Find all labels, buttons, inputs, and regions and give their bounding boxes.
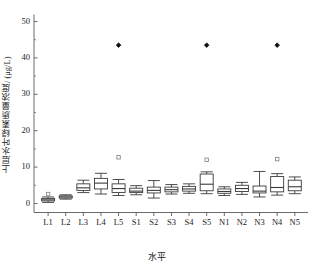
outlier-filled [204,43,209,48]
boxplot-box-L4 [94,173,107,194]
x-tick-label-N5: N5 [285,218,305,227]
boxplot-figure: 上层水叶绿素质量浓度/ (μg/L) 水平 01020304050L1L2L3L… [0,0,314,271]
box-iqr [288,180,301,191]
boxplot-box-N3 [253,171,266,196]
box-iqr [77,184,90,191]
y-tick-label: 20 [12,126,30,135]
boxplot-box-S1 [130,186,143,195]
box-iqr [200,174,213,191]
boxplot-box-N1 [218,187,231,196]
boxplot-box-S4 [183,184,196,193]
y-tick-label: 0 [12,199,30,208]
boxplot-box-S2 [147,181,160,198]
outlier-open [46,192,49,195]
outlier-open [117,156,120,159]
boxplot-box-N2 [235,182,248,194]
boxplot-box-L3 [77,180,90,192]
outlier-filled [116,43,121,48]
box-iqr [130,188,143,192]
boxplot-box-N5 [288,177,301,194]
boxplot-box-L5 [112,43,125,196]
x-axis-title: 水平 [0,250,314,263]
box-iqr [253,186,266,193]
box-iqr [271,177,284,192]
y-tick-label: 40 [12,53,30,62]
boxplot-box-S3 [165,185,178,194]
boxplot-box-S5 [200,43,213,194]
outlier-open [275,157,278,160]
boxplot-box-N4 [271,43,284,195]
y-tick-label: 30 [12,89,30,98]
boxplot-box-L2 [59,195,72,199]
outlier-filled [275,43,280,48]
outlier-open [205,158,208,161]
y-tick-label: 10 [12,162,30,171]
y-tick-label: 50 [12,17,30,26]
plot-canvas [0,0,314,271]
boxplot-box-L1 [42,192,55,202]
